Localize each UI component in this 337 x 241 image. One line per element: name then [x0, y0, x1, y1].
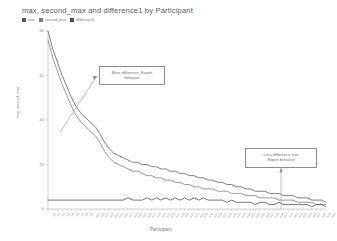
leader-arrow-expert [93, 76, 98, 80]
series-line-difference1 [48, 198, 326, 207]
y-axis-title: max, second_max [15, 73, 20, 133]
annotation-expert-line2: behavior [103, 75, 161, 80]
y-tick-label: 80 [30, 28, 44, 33]
x-axis-title: Participant [150, 227, 172, 232]
series-layer [48, 31, 326, 207]
annotation-nonexpert-line2: Expert behavior [249, 157, 313, 162]
y-tick-label: 40 [30, 117, 44, 122]
y-tick-label: 0 [30, 206, 44, 211]
series-line-max [48, 31, 326, 202]
series-line-second-max [48, 40, 326, 205]
axes-layer [46, 31, 326, 211]
y-tick-label: 60 [30, 73, 44, 78]
annotation-non-expert-behavior: Less difference, non Expert behavior [245, 148, 317, 168]
leader-arrow-nonexpert [279, 168, 282, 172]
annotation-expert-behavior: More difference, Expert behavior [99, 66, 165, 85]
y-tick-label: 20 [30, 162, 44, 167]
